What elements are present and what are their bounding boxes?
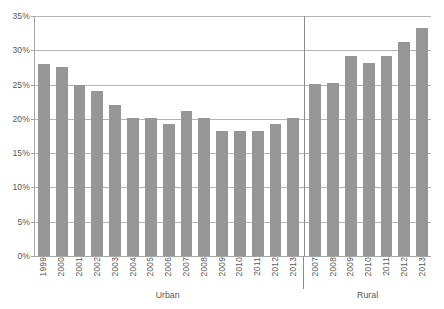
bar [74,85,86,256]
bar [181,111,193,256]
y-axis-tick-label: 5% [17,217,30,227]
x-axis-tick-label: 2013 [417,257,427,276]
y-axis-tick-label: 30% [12,45,30,55]
x-axis-tick-label: 2008 [328,257,338,276]
bar [270,124,282,256]
x-axis-tick-label: 2011 [252,257,262,276]
bar [91,91,103,256]
x-axis-tick-label: 2002 [92,257,102,276]
bar [398,42,410,256]
bar [327,83,339,256]
bar [56,67,68,256]
x-axis-tick-label: 2005 [145,257,155,276]
bar [309,84,321,256]
bar [234,131,246,256]
bar [109,105,121,256]
bar [252,131,264,256]
group-label-rural: Rural [357,290,378,300]
bar [416,28,428,256]
x-axis-tick-label: 2003 [110,257,120,276]
x-axis-group-divider [303,256,304,289]
group-divider-line [304,16,305,256]
x-axis-tick-label: 1999 [38,257,48,276]
bar [198,118,210,256]
x-axis-tick-label: 2006 [163,257,173,276]
x-axis-tick-label: 2009 [217,257,227,276]
bar-chart: 0%5%10%15%20%25%30%35% 19992000200120022… [0,0,444,309]
y-axis-tick-label: 25% [12,80,30,90]
y-axis-tick-label: 0% [17,251,30,261]
y-axis-tick-label: 15% [12,148,30,158]
group-labels: UrbanRural [34,290,430,304]
bar [287,118,299,256]
bar [38,64,50,256]
x-axis-tick-label: 2007 [181,257,191,276]
bar [363,63,375,256]
plot-area: 0%5%10%15%20%25%30%35% [34,16,430,256]
x-axis-tick-label: 2001 [74,257,84,276]
group-label-urban: Urban [156,290,180,300]
x-axis-tick-label: 2007 [310,257,320,276]
x-axis-tick-label: 2013 [288,257,298,276]
x-axis-tick-label: 2010 [363,257,373,276]
x-axis-tick-label: 2011 [381,257,391,276]
y-axis-tick-label: 35% [12,11,30,21]
y-axis-tick-label: 10% [12,182,30,192]
x-axis-tick-labels: 1999200020012002200320042005200620072008… [34,257,430,289]
y-axis-tick-label: 20% [12,114,30,124]
x-axis-tick-label: 2010 [234,257,244,276]
bar [216,131,228,256]
bar [145,118,157,256]
bar [127,118,139,256]
x-axis-tick-label: 2008 [199,257,209,276]
x-axis-tick-label: 2009 [345,257,355,276]
bars-group [35,16,431,256]
x-axis-tick-label: 2012 [399,257,409,276]
x-axis-tick-label: 2000 [56,257,66,276]
x-axis-tick-label: 2012 [270,257,280,276]
x-axis-tick-label: 2004 [128,257,138,276]
bar [381,56,393,256]
bar [345,56,357,256]
bar [163,124,175,256]
